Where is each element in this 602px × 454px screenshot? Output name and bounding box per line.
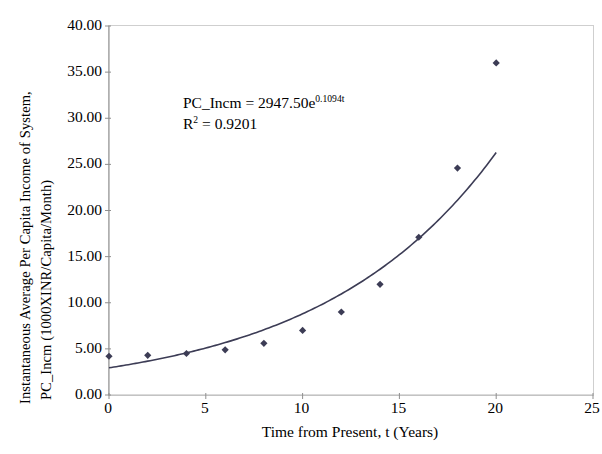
x-axis-tick-label: 15: [368, 400, 428, 416]
x-axis-tick-label: 10: [272, 400, 332, 416]
r-squared-value: = 0.9201: [198, 115, 257, 132]
chart-container: Instantaneous Average Per Capita Income …: [0, 0, 602, 454]
trendline-curve: [109, 153, 496, 368]
data-point-marker: [183, 350, 190, 357]
y-axis-tick-label: 35.00: [40, 63, 102, 79]
data-point-marker: [454, 164, 461, 171]
y-axis-tick-label: 40.00: [40, 17, 102, 33]
data-point-marker: [299, 327, 306, 334]
y-axis-tick-label: 25.00: [40, 156, 102, 172]
y-axis-tick-label: 10.00: [40, 294, 102, 310]
plot-svg: [108, 25, 594, 396]
axis-ticks: [105, 26, 593, 399]
r-squared-symbol: R: [183, 115, 193, 132]
y-axis-tick-label: 20.00: [40, 202, 102, 218]
equation-line: PC_Incm = 2947.50e0.1094t: [183, 93, 344, 114]
x-axis-tick-label: 20: [465, 400, 525, 416]
data-point-marker: [222, 346, 229, 353]
equation-exponent: 0.1094t: [315, 93, 344, 104]
data-point-marker: [376, 281, 383, 288]
data-point-marker: [105, 353, 112, 360]
data-point-marker: [338, 308, 345, 315]
x-axis-title: Time from Present, t (Years): [108, 424, 592, 440]
x-axis-tick-label: 25: [562, 400, 602, 416]
equation-text: PC_Incm = 2947.50e: [183, 94, 315, 111]
r-squared-line: R2 = 0.9201: [183, 114, 344, 135]
x-axis-tick-labels: 0510152025: [0, 400, 602, 424]
y-axis-tick-label: 15.00: [40, 248, 102, 264]
x-axis-tick-label: 0: [78, 400, 138, 416]
data-point-marker: [260, 340, 267, 347]
trendline-equation-annotation: PC_Incm = 2947.50e0.1094t R2 = 0.9201: [183, 93, 344, 135]
x-axis-tick-label: 5: [175, 400, 235, 416]
y-axis-tick-label: 5.00: [40, 340, 102, 356]
data-point-marker: [493, 59, 500, 66]
y-axis-title-line-1: Instantaneous Average Per Capita Income …: [17, 91, 34, 404]
y-axis-tick-label: 30.00: [40, 110, 102, 126]
plot-area: [108, 25, 594, 396]
y-axis-tick-labels: 0.005.0010.0015.0020.0025.0030.0035.0040…: [40, 0, 102, 454]
data-point-marker: [144, 352, 151, 359]
